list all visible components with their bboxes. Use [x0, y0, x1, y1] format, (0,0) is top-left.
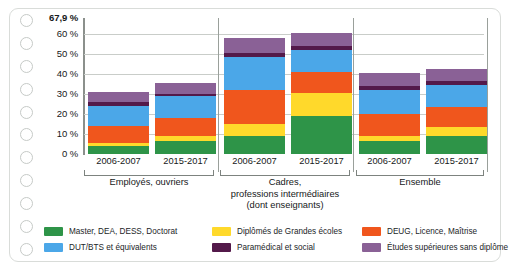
- bar-segment: [88, 92, 149, 102]
- bar-segment: [426, 127, 487, 136]
- bar-segment: [224, 136, 285, 154]
- legend-item[interactable]: Paramédical et social: [212, 239, 362, 255]
- bar-segment: [155, 118, 216, 136]
- group-separator-line: [487, 18, 488, 172]
- x-axis-label-period: 2015-2017: [286, 156, 358, 166]
- y-tick-label: 67,9 %: [34, 12, 78, 23]
- legend-color-swatch: [362, 243, 381, 252]
- legend-label: DUT/BTS et équivalents: [69, 243, 157, 252]
- y-tick-label: 60 %: [34, 28, 78, 39]
- legend-item[interactable]: Master, DEA, DESS, Doctorat: [44, 223, 212, 239]
- stacked-bar: [88, 92, 149, 154]
- bar-segment: [426, 69, 487, 81]
- legend-color-swatch: [44, 227, 63, 236]
- group-label-line: professions intermédiaires: [200, 189, 370, 201]
- plot-area: [84, 18, 484, 154]
- punch-hole-circle-icon: [20, 106, 33, 119]
- stacked-bar: [359, 73, 420, 154]
- legend-item[interactable]: Études supérieures sans diplôme: [362, 239, 496, 255]
- group-label: Ensemble: [336, 177, 504, 189]
- y-tick-label: 20 %: [34, 108, 78, 119]
- legend-label: Diplômés de Grandes écoles: [237, 227, 342, 236]
- stacked-bar: [155, 83, 216, 154]
- bar-segment: [88, 126, 149, 143]
- x-axis-period-labels: 2006-20072015-20172006-20072015-20172006…: [84, 156, 484, 170]
- bar-segment: [291, 50, 352, 72]
- bar-segment: [359, 73, 420, 86]
- bar-segment: [426, 85, 487, 107]
- legend-color-swatch: [212, 243, 231, 252]
- bar-segment: [291, 72, 352, 93]
- legend-color-swatch: [44, 243, 63, 252]
- legend-item[interactable]: DUT/BTS et équivalents: [44, 239, 212, 255]
- legend-item[interactable]: DEUG, Licence, Maîtrise: [362, 223, 496, 239]
- x-axis-label-period: 2006-2007: [83, 156, 155, 166]
- bar-segment: [291, 116, 352, 154]
- group-bracket: [84, 170, 214, 176]
- group-label-line: (dont enseignants): [200, 200, 370, 212]
- punch-hole-circle-icon: [20, 60, 33, 73]
- stacked-bar: [426, 69, 487, 154]
- punch-hole-circle-icon: [20, 14, 33, 27]
- punch-hole-circle-icon: [20, 243, 33, 256]
- bar-segment: [224, 90, 285, 124]
- group-bracket: [356, 170, 484, 176]
- punch-hole-circle-icon: [20, 128, 33, 141]
- group-labels: Employés, ouvriersCadres,professions int…: [60, 177, 504, 223]
- gridline-60: [84, 34, 484, 35]
- bar-segment: [426, 107, 487, 127]
- legend-color-swatch: [362, 227, 381, 236]
- group-label-line: Ensemble: [336, 177, 504, 189]
- bar-segment: [224, 124, 285, 136]
- bar-segment: [88, 146, 149, 154]
- chart-page: 2006-20072015-20172006-20072015-20172006…: [0, 0, 510, 271]
- punch-hole-circle-icon: [20, 220, 33, 233]
- legend-label: Études supérieures sans diplôme: [387, 243, 508, 252]
- bar-segment: [155, 96, 216, 118]
- y-tick-label: 50 %: [34, 48, 78, 59]
- group-separator-line: [353, 18, 354, 172]
- bar-segment: [224, 38, 285, 53]
- x-axis-label-period: 2015-2017: [421, 156, 493, 166]
- gridline-679: [84, 18, 484, 19]
- punch-hole-circle-icon: [20, 151, 33, 164]
- x-axis-label-period: 2015-2017: [150, 156, 222, 166]
- y-tick-label: 30 %: [34, 88, 78, 99]
- bar-segment: [291, 93, 352, 116]
- y-tick-label: 10 %: [34, 128, 78, 139]
- x-axis-label-period: 2006-2007: [219, 156, 291, 166]
- group-bracket: [220, 170, 350, 176]
- bar-segment: [224, 57, 285, 90]
- legend-label: Master, DEA, DESS, Doctorat: [69, 227, 177, 236]
- legend-color-swatch: [212, 227, 231, 236]
- stacked-bar: [291, 33, 352, 154]
- y-tick-label: 40 %: [34, 68, 78, 79]
- group-separator-line: [218, 18, 219, 172]
- x-axis-label-period: 2006-2007: [354, 156, 426, 166]
- bar-segment: [426, 136, 487, 154]
- bar-segment: [359, 90, 420, 114]
- punch-hole-circle-icon: [20, 83, 33, 96]
- stacked-bar: [224, 38, 285, 154]
- punch-hole-circle-icon: [20, 37, 33, 50]
- y-tick-label: 0 %: [34, 148, 78, 159]
- bar-segment: [359, 141, 420, 154]
- legend-label: Paramédical et social: [237, 243, 315, 252]
- punch-hole-circle-icon: [20, 197, 33, 210]
- legend-item[interactable]: Diplômés de Grandes écoles: [212, 223, 362, 239]
- bar-segment: [88, 106, 149, 126]
- chart-legend: Master, DEA, DESS, DoctoratDiplômés de G…: [44, 223, 496, 255]
- bar-segment: [155, 83, 216, 94]
- punch-hole-circle-icon: [20, 174, 33, 187]
- bar-segment: [359, 114, 420, 136]
- bar-segment: [155, 141, 216, 154]
- legend-label: DEUG, Licence, Maîtrise: [387, 227, 477, 236]
- bar-segment: [291, 33, 352, 46]
